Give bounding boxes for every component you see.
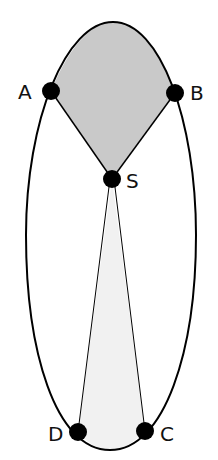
label-c: C: [160, 422, 174, 446]
orbit-diagram: A B S D C: [0, 0, 218, 460]
point-s: [103, 170, 121, 188]
point-a: [42, 82, 60, 100]
upper-shaded-sector: [51, 22, 175, 179]
label-d: D: [48, 422, 63, 446]
lower-shaded-sector: [78, 179, 145, 450]
point-b: [166, 84, 184, 102]
point-c: [136, 422, 154, 440]
point-d: [69, 423, 87, 441]
label-a: A: [18, 80, 32, 104]
label-b: B: [190, 81, 204, 105]
label-s: S: [126, 169, 139, 193]
